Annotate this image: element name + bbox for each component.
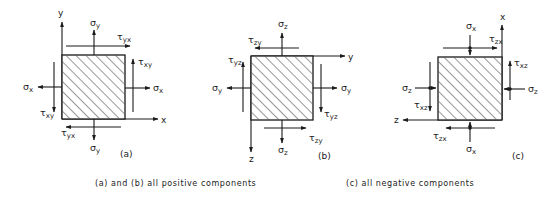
right-normal-label: σx: [153, 82, 163, 95]
bottom-shear-label: τzy: [309, 132, 323, 145]
bottom-normal-dot: [468, 126, 472, 130]
top-normal-label: σz: [278, 18, 288, 31]
panel-a: y x σy τyx τxy σx σx τxy τyx σy (a): [23, 8, 167, 159]
right-normal-label: σy: [341, 82, 351, 95]
right-shear-label: τyz: [324, 108, 338, 121]
bottom-shear-label: τyx: [61, 127, 75, 140]
panel-c: x z σx τzx τxz σz σz τxz τzx σx (c): [394, 12, 538, 161]
top-shear-label: τyx: [117, 31, 131, 44]
left-shear-label: τxy: [40, 107, 54, 120]
left-normal-label: σx: [23, 81, 33, 94]
stress-element-figure: y x σy τyx τxy σx σx τxy τyx σy (a): [0, 0, 554, 201]
top-shear-label: τzx: [489, 33, 503, 46]
axis-label-horizontal: y: [348, 52, 354, 62]
axis-label-horizontal: x: [161, 115, 167, 125]
bottom-shear-label: τzx: [433, 130, 447, 143]
top-normal-label: σx: [466, 20, 476, 33]
caption-negative: (c) all negative components: [346, 179, 474, 188]
panel-b: y z σz τzy τyz σy σy τyz τzy σz (b): [212, 18, 354, 164]
left-shear-label: τyz: [228, 54, 242, 67]
bottom-normal-label: σx: [466, 143, 476, 156]
caption-positive: (a) and (b) all positive components: [95, 179, 256, 188]
left-normal-label: σy: [212, 82, 222, 95]
top-shear-label: τzy: [248, 34, 262, 47]
axis-label-vertical: z: [249, 154, 254, 164]
hatch-fill: [439, 58, 502, 120]
right-normal-label: σz: [528, 83, 538, 96]
hatch-fill: [63, 56, 125, 119]
right-shear-label: τxz: [514, 57, 528, 70]
axis-label-horizontal: z: [394, 115, 399, 125]
panel-tag: (c): [512, 151, 524, 161]
panel-tag: (b): [318, 151, 331, 161]
bottom-normal-label: σz: [278, 144, 288, 157]
bottom-normal-label: σy: [90, 142, 100, 155]
hatch-fill: [252, 57, 313, 120]
axis-label-vertical: x: [500, 12, 506, 22]
right-normal-dot: [508, 87, 512, 91]
top-normal-label: σy: [90, 17, 100, 30]
right-shear-label: τxy: [138, 56, 152, 69]
axis-label-vertical: y: [58, 8, 64, 18]
left-shear-label: τxz: [414, 99, 428, 112]
panel-tag: (a): [120, 149, 133, 159]
left-normal-label: σz: [402, 82, 412, 95]
